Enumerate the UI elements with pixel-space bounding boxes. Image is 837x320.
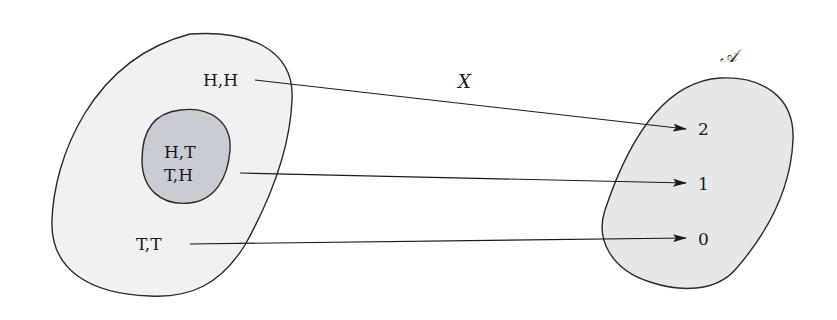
- value-0-label: 0: [698, 229, 709, 249]
- value-2-label: 2: [698, 119, 709, 139]
- value-1-label: 1: [698, 174, 709, 194]
- outcome-ht-label: H,T: [164, 142, 196, 162]
- mapping-diagram: H,H H,T T,H T,T 2 1 0 X 𝒜: [0, 0, 837, 320]
- codomain-a-label: 𝒜: [720, 45, 742, 66]
- outcome-hh-label: H,H: [203, 70, 238, 90]
- function-x-label: X: [456, 71, 472, 92]
- outcome-th-label: T,H: [164, 165, 193, 185]
- outcome-tt-label: T,T: [136, 234, 162, 254]
